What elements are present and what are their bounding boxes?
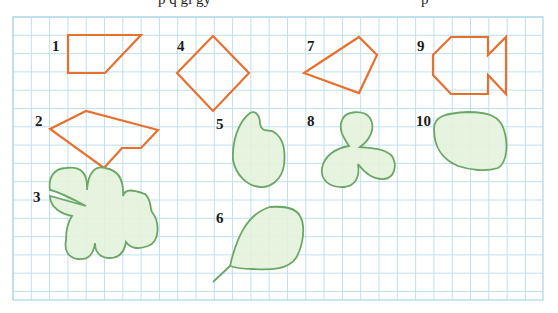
figure-9-polygon bbox=[433, 37, 506, 94]
grid-canvas: 1 2 3 4 5 6 7 bbox=[0, 0, 558, 313]
figure-10: 10 bbox=[416, 112, 506, 170]
shapes-worksheet: p q gi gy p 1 2 3 4 5 bbox=[0, 0, 558, 313]
figure-9: 9 bbox=[417, 37, 506, 94]
figure-5: 5 bbox=[216, 112, 285, 187]
figure-8-blob bbox=[322, 112, 395, 187]
figure-6-stem bbox=[213, 266, 230, 282]
figure-7: 7 bbox=[304, 37, 377, 93]
figure-1-label: 1 bbox=[52, 38, 60, 54]
figure-7-polygon bbox=[304, 37, 377, 93]
figure-5-label: 5 bbox=[216, 116, 224, 132]
figure-6-label: 6 bbox=[216, 210, 224, 226]
figure-10-label: 10 bbox=[416, 113, 431, 129]
figure-4: 4 bbox=[177, 36, 249, 111]
figure-4-polygon bbox=[177, 36, 249, 111]
figure-6-leaf bbox=[230, 207, 303, 270]
figure-9-label: 9 bbox=[417, 38, 425, 54]
figure-10-blob bbox=[434, 112, 506, 170]
figure-5-blob bbox=[233, 112, 285, 187]
figure-3: 3 bbox=[33, 167, 158, 259]
figure-8-label: 8 bbox=[307, 113, 315, 129]
figure-2-label: 2 bbox=[35, 113, 43, 129]
figure-3-label: 3 bbox=[33, 189, 41, 205]
figure-7-label: 7 bbox=[307, 38, 315, 54]
figure-4-label: 4 bbox=[177, 38, 185, 54]
figure-2: 2 bbox=[35, 111, 158, 168]
figure-8: 8 bbox=[307, 112, 395, 187]
